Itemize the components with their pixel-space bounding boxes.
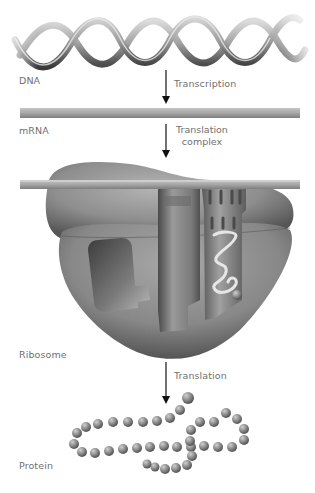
label-translation-complex-line1: Translation <box>172 124 232 136</box>
protein-chain-icon <box>69 392 249 474</box>
label-translation: Translation <box>174 370 227 381</box>
diagram-graphics <box>0 0 315 493</box>
arrow-translation-complex-icon <box>162 124 170 158</box>
dna-helix-icon <box>0 0 315 75</box>
label-protein: Protein <box>19 460 53 471</box>
label-ribosome: Ribosome <box>19 349 67 360</box>
arrow-transcription-icon <box>162 70 170 104</box>
label-transcription: Transcription <box>174 78 236 89</box>
diagram-canvas: DNA mRNA Ribosome Protein Transcription … <box>0 0 315 493</box>
label-translation-complex-line2: complex <box>172 136 232 148</box>
label-mrna: mRNA <box>19 125 49 136</box>
label-dna: DNA <box>19 75 40 86</box>
mrna-strand <box>20 108 300 118</box>
label-translation-complex: Translation complex <box>172 124 232 148</box>
arrow-translation-icon <box>162 362 170 404</box>
ribosome-icon <box>20 162 300 359</box>
